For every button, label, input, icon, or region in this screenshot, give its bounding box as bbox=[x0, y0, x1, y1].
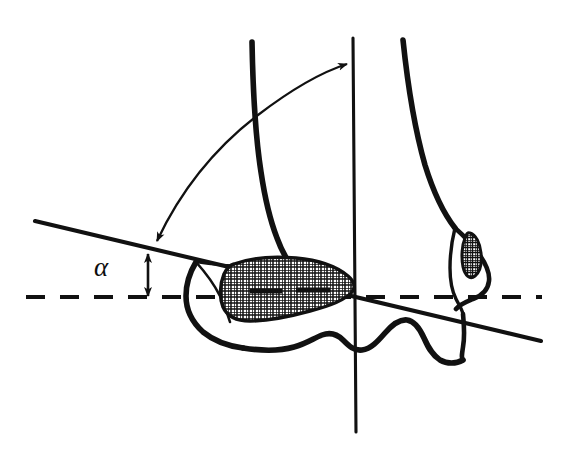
lateral-malleolus-distal-outline bbox=[462, 314, 464, 360]
figure-background bbox=[0, 0, 567, 450]
lateral-malleolus-hatched-region bbox=[462, 233, 481, 278]
angle-alpha-label: α bbox=[94, 252, 109, 282]
figure-root: α bbox=[0, 0, 567, 450]
ankle-joint-angle-diagram: α bbox=[0, 0, 567, 450]
